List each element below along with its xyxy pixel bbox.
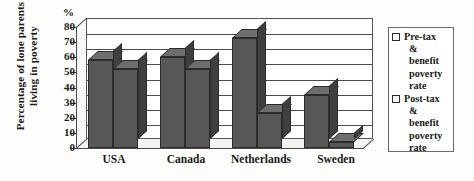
legend-line-3: poverty <box>404 130 450 142</box>
legend-line-1: Pre-tax <box>404 31 450 43</box>
legend-swatch-icon <box>392 95 400 103</box>
bar-netherlands-pretax <box>232 0 257 148</box>
y-tick-label-50: 50 <box>64 66 75 77</box>
y-tick-label-30: 30 <box>64 97 75 108</box>
legend-item-post-tax: Post-tax & benefit poverty rate <box>392 93 450 154</box>
plot-side-wall <box>76 18 87 149</box>
y-axis-line <box>76 27 77 148</box>
chart-legend: Pre-tax & benefit poverty rate Post-tax … <box>388 27 454 152</box>
bar-front <box>185 69 210 148</box>
bar-front <box>88 60 113 148</box>
x-label-sweden: Sweden <box>300 153 372 165</box>
legend-line-1: Post-tax <box>404 93 450 105</box>
bar-side <box>210 52 219 139</box>
x-axis-category-labels: USA Canada Netherlands Sweden <box>0 153 474 173</box>
bar-front <box>304 95 329 148</box>
y-tick-label-60: 60 <box>64 51 75 62</box>
x-axis-line <box>76 148 364 149</box>
legend-swatch-icon <box>392 33 400 41</box>
y-tick-label-70: 70 <box>64 36 75 47</box>
bar-front <box>160 57 185 148</box>
legend-line-4: rate <box>404 142 450 154</box>
y-tick-label-0: 0 <box>70 142 76 153</box>
legend-line-4: rate <box>404 80 450 92</box>
bar-canada-pretax <box>160 0 185 148</box>
y-tick-label-20: 20 <box>64 112 75 123</box>
chart-figure: Percentage of lone parents living in pov… <box>0 0 474 181</box>
bar-usa-posttax <box>113 0 138 148</box>
bar-sweden-posttax <box>329 0 354 148</box>
bar-front <box>232 38 257 148</box>
y-tick-label-80: 80 <box>64 21 75 32</box>
x-label-usa: USA <box>78 153 150 165</box>
legend-line-2: & benefit <box>404 105 450 129</box>
bar-sweden-pretax <box>304 0 329 148</box>
bar-front <box>329 142 354 148</box>
legend-label-post-tax: Post-tax & benefit poverty rate <box>392 93 450 154</box>
bar-front <box>113 69 138 148</box>
x-label-canada: Canada <box>150 153 222 165</box>
y-tick-label-40: 40 <box>64 82 75 93</box>
bar-canada-posttax <box>185 0 210 148</box>
legend-item-pre-tax: Pre-tax & benefit poverty rate <box>392 31 450 92</box>
bar-usa-pretax <box>88 0 113 148</box>
bar-front <box>257 113 282 148</box>
legend-label-pre-tax: Pre-tax & benefit poverty rate <box>392 31 450 92</box>
bar-netherlands-posttax <box>257 0 282 148</box>
legend-line-2: & benefit <box>404 43 450 67</box>
legend-line-3: poverty <box>404 68 450 80</box>
bar-side <box>138 52 147 139</box>
x-label-netherlands: Netherlands <box>220 153 302 165</box>
y-tick-label-10: 10 <box>64 127 75 138</box>
